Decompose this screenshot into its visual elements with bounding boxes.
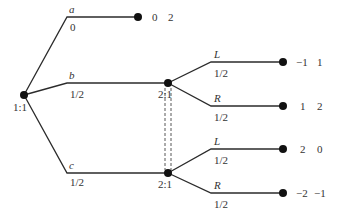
- root-node: [20, 91, 28, 99]
- terminal-node: [279, 102, 287, 110]
- game-tree: 1:1 a 0 b 1/2 c 1/2 0 2 2:1 2:1 L 1/2 R …: [0, 0, 345, 219]
- player2-label: 2:1: [158, 178, 172, 190]
- probability-label: 1/2: [70, 88, 84, 100]
- payoff-p1: −1: [296, 56, 308, 68]
- payoff-p2: 2: [168, 11, 174, 23]
- player2-node-upper: [164, 79, 172, 87]
- root-label: 1:1: [13, 101, 27, 113]
- terminal-node: [134, 13, 142, 21]
- action-label: L: [213, 135, 220, 147]
- action-label: R: [213, 92, 221, 104]
- probability-label: 1/2: [214, 111, 228, 123]
- probability-label: 1/2: [214, 67, 228, 79]
- terminal-node: [279, 145, 287, 153]
- player2-node-lower: [164, 169, 172, 177]
- edge-lower-R: [168, 173, 283, 193]
- payoff-p2: −1: [314, 187, 326, 199]
- payoff-p1: 0: [152, 11, 158, 23]
- action-label: c: [69, 159, 74, 171]
- probability-label: 1/2: [70, 176, 84, 188]
- payoff-p2: 0: [317, 143, 323, 155]
- terminal-node: [279, 189, 287, 197]
- action-label: a: [69, 3, 75, 15]
- payoff-p2: 2: [317, 100, 323, 112]
- payoff-p1: −2: [296, 187, 308, 199]
- action-label: L: [213, 48, 220, 60]
- edge-upper-R: [168, 83, 283, 106]
- terminal-node: [279, 58, 287, 66]
- payoff-p1: 2: [300, 143, 306, 155]
- edge-b: [24, 83, 168, 95]
- edge-c: [24, 95, 168, 173]
- probability-label: 0: [70, 21, 76, 33]
- action-label: R: [213, 179, 221, 191]
- probability-label: 1/2: [214, 198, 228, 210]
- player2-label: 2:1: [158, 88, 172, 100]
- payoff-p2: 1: [317, 56, 323, 68]
- payoff-p1: 1: [300, 100, 306, 112]
- probability-label: 1/2: [214, 154, 228, 166]
- action-label: b: [69, 69, 75, 81]
